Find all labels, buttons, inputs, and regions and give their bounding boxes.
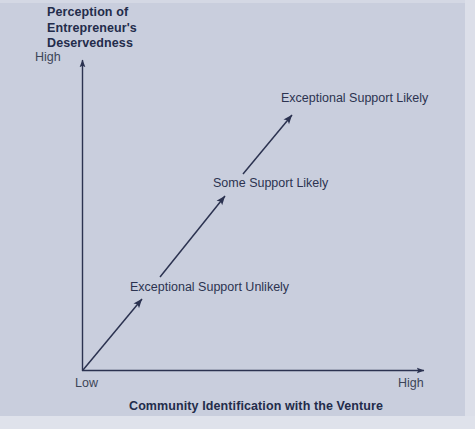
- trend-arrow-segment-1: [83, 299, 142, 370]
- y-axis-title-line-2: Entrepreneur's: [47, 21, 137, 37]
- annotation-exceptional-support-likely: Exceptional Support Likely: [281, 91, 428, 105]
- x-axis-high-label: High: [398, 376, 424, 390]
- plot-area: [0, 0, 475, 429]
- figure-container: Perception of Entrepreneur's Deservednes…: [0, 0, 475, 429]
- trend-arrow: [83, 115, 292, 370]
- x-axis-title: Community Identification with the Ventur…: [129, 399, 383, 415]
- x-axis-low-label: Low: [75, 376, 98, 390]
- annotation-some-support-likely: Some Support Likely: [213, 176, 328, 190]
- annotation-exceptional-support-unlikely: Exceptional Support Unlikely: [130, 280, 289, 294]
- trend-arrow-segment-2: [160, 196, 225, 277]
- trend-arrow-segment-3: [243, 115, 292, 174]
- y-axis-high-label: High: [35, 50, 61, 64]
- y-axis-title-line-1: Perception of: [47, 5, 137, 21]
- y-axis-title: Perception of Entrepreneur's Deservednes…: [47, 5, 137, 52]
